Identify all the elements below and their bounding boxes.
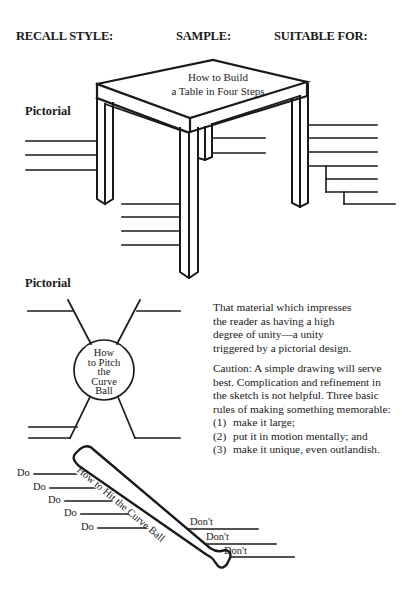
description-line: the reader as having a high <box>213 315 351 329</box>
caution-paragraph: Caution: A simple drawing will serve bes… <box>213 362 391 457</box>
description-line: degree of unity—a unity <box>213 328 351 342</box>
ball-title-line: Ball <box>74 386 134 396</box>
caution-line: Caution: A simple drawing will serve <box>213 362 391 376</box>
dont-label: Don't <box>206 531 229 542</box>
do-label: Do <box>33 481 46 492</box>
table-title-line2: a Table in Four Steps <box>148 85 288 99</box>
description-paragraph: That material which impresses the reader… <box>213 301 351 355</box>
do-label: Do <box>64 507 77 518</box>
rule-text: make it unique, even outlandish. <box>233 443 380 457</box>
caution-line: the sketch is not helpful. Three basic <box>213 389 391 403</box>
rule-number: (3) <box>213 443 233 457</box>
dont-label: Don't <box>190 516 213 527</box>
description-line: That material which impresses <box>213 301 351 315</box>
caution-line: rules of making something memorable: <box>213 403 391 417</box>
table-title-line1: How to Build <box>148 71 288 85</box>
do-label: Do <box>48 494 61 505</box>
section2-label: Pictorial <box>25 276 71 291</box>
dont-label: Don't <box>224 545 247 556</box>
rule-item: (1)make it large; <box>213 416 391 430</box>
rule-number: (1) <box>213 416 233 430</box>
rule-item: (3)make it unique, even outlandish. <box>213 443 391 457</box>
table-title: How to Build a Table in Four Steps <box>148 71 288 98</box>
caution-line: best. Complication and refinement in <box>213 376 391 390</box>
rule-item: (2)put it in motion mentally; and <box>213 430 391 444</box>
description-line: triggered by a pictorial design. <box>213 342 351 356</box>
do-label: Do <box>81 521 94 532</box>
rule-text: put it in motion mentally; and <box>233 430 368 444</box>
rule-number: (2) <box>213 430 233 444</box>
do-label: Do <box>17 467 30 478</box>
rule-text: make it large; <box>233 416 295 430</box>
ball-title: How to Pitch the Curve Ball <box>74 348 134 396</box>
